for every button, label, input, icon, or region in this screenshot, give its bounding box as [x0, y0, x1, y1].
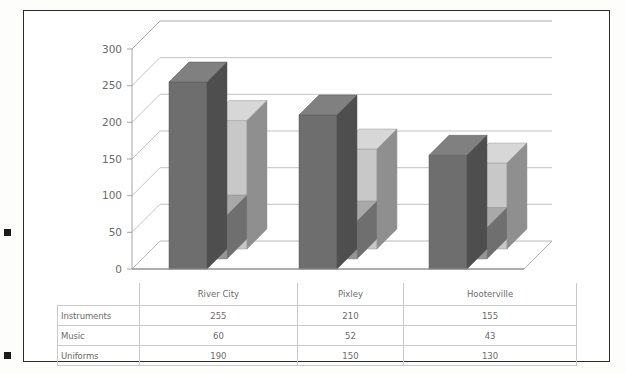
screenshot-root: 300 250 200 150 100 50 0 — [0, 0, 626, 373]
bar-river-city-instruments[interactable] — [169, 62, 227, 269]
y-tick-label: 50 — [109, 226, 122, 238]
table-row-label-uniforms: Uniforms — [58, 346, 140, 366]
y-tick-label: 100 — [102, 189, 122, 201]
bar-hooterville-instruments[interactable] — [429, 135, 487, 269]
table-cell-uniforms-hooterville: 130 — [404, 346, 577, 366]
value-axis-ticks — [127, 49, 132, 269]
table-cell-music-hooterville: 43 — [404, 326, 577, 346]
table-column-header-river-city: River City — [140, 283, 298, 306]
table-row-label-instruments: Instruments — [58, 306, 140, 326]
y-tick-label: 300 — [102, 43, 122, 55]
chart-data-table: River City Pixley Hooterville Instrument… — [57, 283, 577, 366]
table-row: Instruments 255 210 155 — [58, 306, 577, 326]
table-cell-uniforms-pixley: 150 — [297, 346, 403, 366]
table-column-header-hooterville: Hooterville — [404, 283, 577, 306]
bar-pixley-instruments[interactable] — [299, 95, 357, 269]
table-row: Music 60 52 43 — [58, 326, 577, 346]
table-cell-instruments-river-city: 255 — [140, 306, 298, 326]
column-chart-3d[interactable]: 300 250 200 150 100 50 0 — [24, 11, 609, 283]
table-cell-instruments-pixley: 210 — [297, 306, 403, 326]
table-cell-music-pixley: 52 — [297, 326, 403, 346]
y-tick-label: 0 — [115, 263, 122, 275]
table-cell-music-river-city: 60 — [140, 326, 298, 346]
table-column-header-pixley: Pixley — [297, 283, 403, 306]
table-cell-instruments-hooterville: 155 — [404, 306, 577, 326]
table-corner-cell — [58, 283, 140, 306]
scan-artifact-mark-upper — [4, 229, 11, 236]
scan-artifact-mark-lower — [4, 352, 11, 359]
table-row: Uniforms 190 150 130 — [58, 346, 577, 366]
table-header-row: River City Pixley Hooterville — [58, 283, 577, 306]
table-row-label-music: Music — [58, 326, 140, 346]
chart-canvas: 300 250 200 150 100 50 0 — [24, 11, 609, 283]
y-tick-label: 150 — [102, 153, 122, 165]
chart-frame: 300 250 200 150 100 50 0 — [23, 10, 610, 362]
value-axis-labels: 300 250 200 150 100 50 0 — [102, 43, 122, 275]
y-tick-label: 200 — [102, 116, 122, 128]
y-tick-label: 250 — [102, 79, 122, 91]
table-cell-uniforms-river-city: 190 — [140, 346, 298, 366]
